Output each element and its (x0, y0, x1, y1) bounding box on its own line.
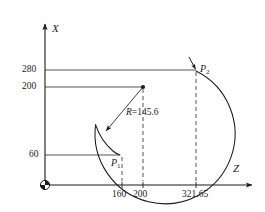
arc-path (90, 42, 235, 204)
point-label-p2: P2 (200, 64, 210, 74)
axis-label-z: Z (233, 163, 239, 174)
figure-canvas: X Z 280 200 60 160 200 321.65 P1 P2 R=14… (0, 0, 265, 212)
tick-label-z-321-65: 321.65 (182, 190, 208, 200)
tick-label-x-60: 60 (29, 150, 39, 160)
tick-label-z-160: 160 (112, 190, 126, 200)
point-label-p2-subscript: 2 (206, 68, 210, 76)
arrowhead-p2 (189, 57, 195, 69)
diagram-svg (0, 0, 265, 212)
radius-label-value: 145.6 (137, 107, 158, 117)
tick-label-z-200: 200 (133, 190, 147, 200)
axis-label-x: X (52, 23, 59, 34)
point-label-p1: P1 (111, 158, 121, 168)
point-label-p1-subscript: 1 (117, 162, 121, 170)
tick-label-x-280: 280 (22, 65, 36, 75)
arc-center-point (141, 85, 145, 89)
radius-label: R=145.6 (126, 108, 159, 118)
tick-label-x-200: 200 (22, 82, 36, 92)
origin-symbol-icon (40, 180, 49, 189)
